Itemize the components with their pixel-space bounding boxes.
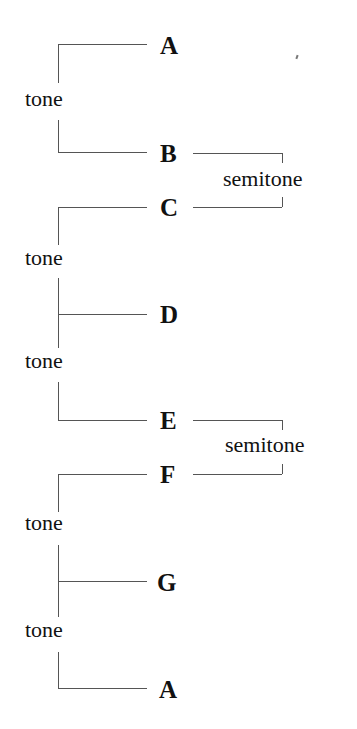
- interval-label-a-b: tone: [25, 88, 63, 110]
- semitone-line-f: [193, 474, 282, 475]
- bracket-line-f-g-upper: [58, 474, 59, 512]
- connector-line-d: [58, 314, 147, 315]
- note-a1: A: [160, 33, 190, 58]
- interval-label-e-f: semitone: [225, 434, 304, 456]
- note-c: C: [160, 195, 190, 220]
- interval-label-c-d: tone: [25, 247, 63, 269]
- bracket-line-c-d-e: [58, 278, 59, 348]
- bracket-line-a-b-upper: [58, 44, 59, 83]
- semitone-line-e: [193, 420, 282, 421]
- note-d: D: [160, 302, 190, 327]
- connector-line-g: [58, 581, 147, 582]
- interval-label-g-a: tone: [25, 619, 63, 641]
- note-b: B: [160, 141, 190, 166]
- note-a2: A: [159, 677, 189, 702]
- bracket-line-g-a-lower: [58, 652, 59, 688]
- bracket-line-d-e-lower: [58, 382, 59, 420]
- semitone-line-b: [193, 153, 282, 154]
- interval-label-b-c: semitone: [223, 168, 302, 190]
- connector-line-f-left: [58, 474, 147, 475]
- connector-line-c-left: [58, 207, 147, 208]
- scan-speck: [295, 55, 298, 59]
- note-g: G: [157, 570, 187, 595]
- note-e: E: [160, 408, 190, 433]
- interval-label-d-e: tone: [25, 350, 63, 372]
- connector-line-e-left: [58, 420, 147, 421]
- semitone-bracket-e-f-upper: [282, 420, 283, 430]
- bracket-line-a-b-lower: [58, 120, 59, 152]
- connector-line-a1: [58, 44, 147, 45]
- bracket-line-c-d-upper: [58, 207, 59, 245]
- connector-line-b-left: [58, 152, 147, 153]
- semitone-bracket-e-f-lower: [282, 464, 283, 474]
- connector-line-a2: [58, 688, 147, 689]
- note-f: F: [160, 462, 190, 487]
- semitone-bracket-b-c-upper: [282, 153, 283, 163]
- semitone-bracket-b-c-lower: [282, 197, 283, 207]
- semitone-line-c: [193, 207, 282, 208]
- interval-label-f-g: tone: [25, 512, 63, 534]
